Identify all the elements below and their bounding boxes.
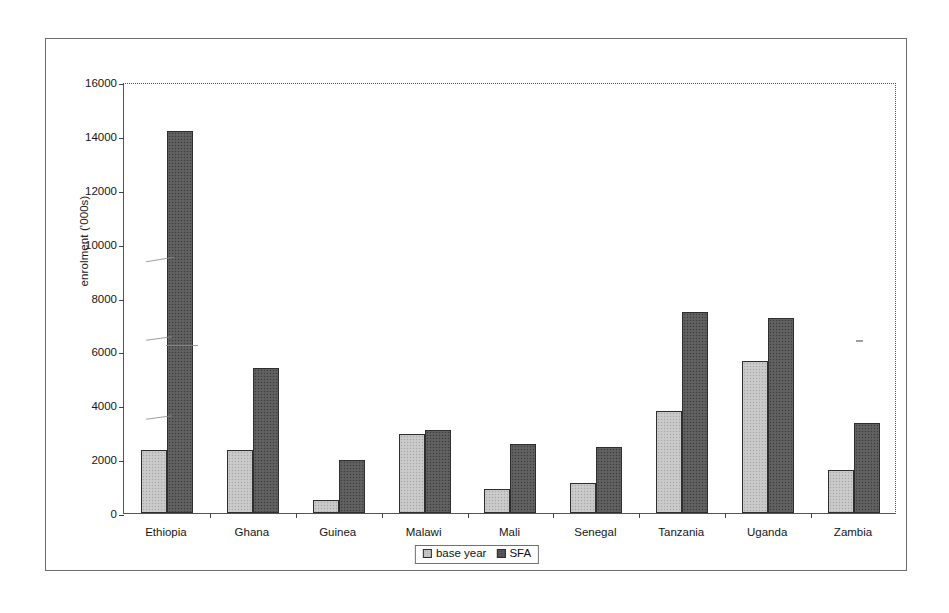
bar-group (382, 84, 468, 513)
scanned-page: enrolment ('000s) 0200040006000800010000… (0, 0, 949, 613)
bar-ethiopia-base-year[interactable] (141, 450, 167, 513)
plot-area: 0200040006000800010000120001400016000 (123, 83, 896, 514)
bar-group-inner (811, 84, 897, 513)
x-axis-tick-mark (296, 513, 297, 518)
legend-item-sfa: SFA (496, 548, 531, 560)
bar-guinea-sfa[interactable] (339, 460, 365, 513)
x-axis-tick-mark (210, 513, 211, 518)
x-axis-tick-mark (468, 513, 469, 518)
bar-group-inner (382, 84, 468, 513)
x-axis-label-guinea: Guinea (295, 526, 381, 538)
bar-ethiopia-sfa[interactable] (167, 131, 193, 514)
figure-outer-border: enrolment ('000s) 0200040006000800010000… (45, 38, 907, 571)
legend-swatch-sfa-icon (496, 549, 505, 558)
x-axis-label-senegal: Senegal (552, 526, 638, 538)
x-axis-label-ethiopia: Ethiopia (123, 526, 209, 538)
bar-guinea-base-year[interactable] (313, 500, 339, 513)
bar-group-inner (725, 84, 811, 513)
x-axis-label-ghana: Ghana (209, 526, 295, 538)
bar-ghana-sfa[interactable] (253, 368, 279, 513)
bar-group (553, 84, 639, 513)
x-axis-tick-mark (553, 513, 554, 518)
x-axis-tick-mark (382, 513, 383, 518)
bar-ghana-base-year[interactable] (227, 450, 253, 513)
x-axis-label-uganda: Uganda (724, 526, 810, 538)
bar-zambia-sfa[interactable] (854, 423, 880, 513)
bar-group-inner (639, 84, 725, 513)
bar-senegal-base-year[interactable] (570, 483, 596, 513)
bar-zambia-base-year[interactable] (828, 470, 854, 513)
bar-group-inner (124, 84, 210, 513)
bars-layer (124, 84, 895, 513)
legend-label-base-year: base year (436, 548, 487, 560)
bar-group-inner (553, 84, 639, 513)
x-axis-label-zambia: Zambia (810, 526, 896, 538)
bar-group (296, 84, 382, 513)
bar-tanzania-base-year[interactable] (656, 411, 682, 513)
x-axis-tick-mark (639, 513, 640, 518)
legend-label-sfa: SFA (509, 548, 531, 560)
bar-group-inner (210, 84, 296, 513)
bar-group (124, 84, 210, 513)
y-axis-tick-mark (119, 515, 124, 516)
bar-group-inner (296, 84, 382, 513)
legend-item-base-year: base year (423, 548, 487, 560)
bar-group (468, 84, 554, 513)
x-axis-tick-mark (811, 513, 812, 518)
bar-group (639, 84, 725, 513)
bar-mali-sfa[interactable] (510, 444, 536, 513)
x-axis-tick-mark (725, 513, 726, 518)
bar-senegal-sfa[interactable] (596, 447, 622, 513)
chart-legend: base year SFA (415, 545, 539, 564)
bar-chart-figure: enrolment ('000s) 0200040006000800010000… (46, 39, 908, 572)
bar-mali-base-year[interactable] (484, 489, 510, 513)
bar-group (811, 84, 897, 513)
legend-swatch-base-year-icon (423, 549, 432, 558)
bar-group (725, 84, 811, 513)
x-axis-label-tanzania: Tanzania (638, 526, 724, 538)
bar-group-inner (468, 84, 554, 513)
bar-malawi-base-year[interactable] (399, 434, 425, 513)
bar-tanzania-sfa[interactable] (682, 312, 708, 513)
bar-malawi-sfa[interactable] (425, 430, 451, 513)
bar-group (210, 84, 296, 513)
x-axis-label-mali: Mali (467, 526, 553, 538)
x-axis-label-malawi: Malawi (381, 526, 467, 538)
bar-uganda-base-year[interactable] (742, 361, 768, 513)
bar-uganda-sfa[interactable] (768, 318, 794, 513)
